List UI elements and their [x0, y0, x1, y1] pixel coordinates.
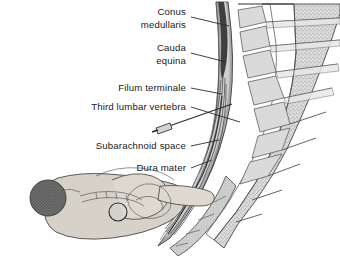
label-conus-medullaris-line1: Conus	[158, 6, 187, 17]
label-filum-terminale: Filum terminale	[118, 82, 186, 93]
patient-head	[30, 180, 66, 216]
label-third-lumbar-vertebra: Third lumbar vertebra	[91, 101, 186, 112]
label-subarachnoid-space: Subarachnoid space	[96, 140, 186, 151]
label-cauda-equina-line2: equina	[156, 55, 186, 66]
label-dura-mater: Dura mater	[137, 162, 187, 173]
lumbar-puncture-figure: Conus medullaris Cauda equina Filum term…	[0, 0, 340, 262]
label-cauda-equina-line1: Cauda	[157, 42, 187, 53]
label-conus-medullaris-line2: medullaris	[141, 19, 186, 30]
